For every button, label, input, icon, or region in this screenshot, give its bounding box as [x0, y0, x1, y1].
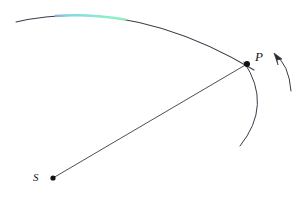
- figure-canvas: [0, 0, 306, 201]
- source-point-dot: [50, 175, 55, 180]
- canvas-background: [0, 0, 306, 201]
- field-point-dot: [244, 61, 250, 67]
- field-point-label: P: [255, 50, 263, 63]
- wavefront-diagram: P S: [0, 0, 306, 201]
- source-point-label: S: [33, 172, 39, 183]
